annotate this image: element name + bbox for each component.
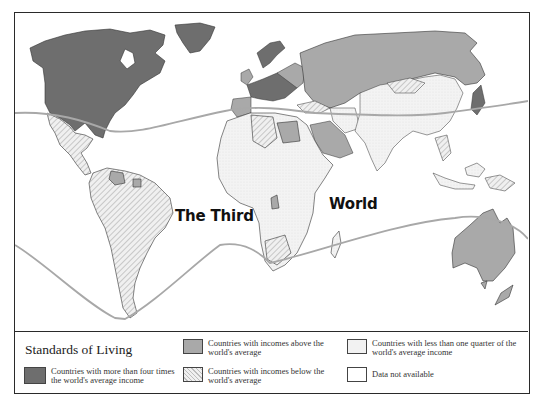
swatch-empty-icon (347, 367, 367, 382)
swatch-dotted-icon (347, 339, 367, 354)
legend-item-no-data: Data not available (347, 367, 502, 382)
legend-title: Standards of Living (25, 342, 132, 358)
legend-item-rich: Countries with more than four times the … (24, 367, 181, 384)
world-map: The Third World (15, 13, 528, 331)
south-america (89, 168, 173, 318)
swatch-dark-icon (24, 367, 46, 384)
legend: Standards of Living Countries with more … (15, 331, 528, 393)
north-america (30, 23, 215, 175)
map-label-third: The Third (175, 207, 254, 225)
legend-item-quarter-average: Countries with less than one quarter of … (347, 339, 522, 356)
europe (231, 41, 305, 117)
legend-item-below-average: Countries with incomes below the world's… (183, 367, 338, 384)
swatch-hatched-icon (183, 367, 203, 382)
asia (355, 75, 515, 191)
map-label-world: World (329, 195, 378, 213)
legend-item-above-average: Countries with incomes above the world's… (183, 339, 338, 356)
map-frame: The Third World Standards of Living Coun… (14, 12, 530, 394)
swatch-medium-icon (183, 339, 203, 354)
